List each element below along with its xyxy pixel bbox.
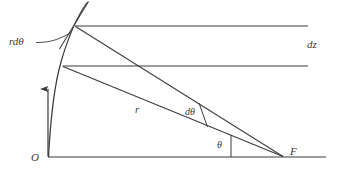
tangent-line: [60, 2, 89, 50]
label-focus: F: [290, 146, 297, 157]
label-rdtheta: rdθ: [9, 36, 24, 47]
parabolic-curve: [49, 2, 88, 157]
ray-lower-from-focus: [63, 67, 283, 157]
label-origin: O: [31, 152, 39, 163]
label-theta: θ: [217, 140, 222, 150]
geometry-diagram: rdθ dz r dθ θ O F: [0, 0, 341, 175]
label-dtheta: dθ: [185, 107, 195, 117]
leader-line-rdtheta: [36, 33, 71, 43]
ray-upper-from-focus: [76, 27, 284, 157]
label-dz: dz: [307, 39, 317, 50]
label-r: r: [135, 104, 139, 115]
